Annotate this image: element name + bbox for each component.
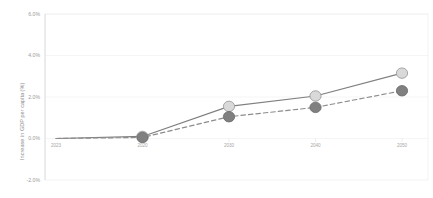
- data-point-marker: [223, 101, 234, 111]
- data-point-marker: [223, 112, 234, 122]
- data-point-marker: [396, 86, 407, 96]
- x-axis-tick-label: 2023: [51, 143, 62, 148]
- data-point-marker: [137, 132, 148, 142]
- chart-background: [0, 0, 433, 198]
- y-axis-tick-label: 0.0%: [28, 135, 40, 141]
- chart-container: 6.0%4.0%2.0%0.0%-2.0% 202320202030204020…: [0, 0, 433, 198]
- data-point-marker: [310, 91, 321, 101]
- line-chart: 6.0%4.0%2.0%0.0%-2.0% 202320202030204020…: [0, 0, 433, 198]
- data-point-marker: [310, 102, 321, 112]
- y-axis-tick-label: 6.0%: [28, 11, 40, 17]
- y-axis-tick-label: 4.0%: [28, 52, 40, 58]
- data-point-marker: [396, 68, 407, 78]
- x-axis-tick-label: 2030: [224, 143, 235, 148]
- x-axis-tick-label: 2040: [310, 143, 321, 148]
- x-axis-tick-label: 2020: [137, 143, 148, 148]
- y-axis-title: Increase in GDP per capita (%): [19, 83, 25, 160]
- y-axis-tick-label: -2.0%: [26, 177, 40, 183]
- y-axis-tick-label: 2.0%: [28, 94, 40, 100]
- x-axis-tick-label: 2050: [397, 143, 408, 148]
